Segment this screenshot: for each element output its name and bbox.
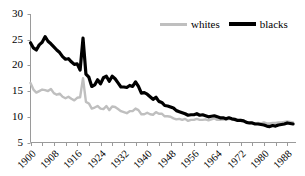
series-group xyxy=(31,37,294,127)
y-tick-label: 25 xyxy=(1,34,23,45)
y-tick-label: 10 xyxy=(1,111,23,122)
legend-label-whites: whites xyxy=(191,18,220,30)
legend-swatch-blacks-icon xyxy=(229,22,256,26)
y-tick-label: 20 xyxy=(1,59,23,70)
chart-container: 30252015105 1900190819161924193219401948… xyxy=(0,0,305,176)
legend-entry-whites: whites xyxy=(160,18,220,30)
x-axis-ticks xyxy=(32,143,288,147)
axis-group xyxy=(28,14,297,146)
y-tick-label: 30 xyxy=(1,8,23,19)
y-tick-label: 15 xyxy=(1,85,23,96)
legend-swatch-whites-icon xyxy=(160,23,187,26)
legend-label-blacks: blacks xyxy=(260,18,288,30)
chart-legend: whites blacks xyxy=(160,16,288,32)
y-tick-label: 5 xyxy=(1,137,23,148)
legend-entry-blacks: blacks xyxy=(229,18,288,30)
